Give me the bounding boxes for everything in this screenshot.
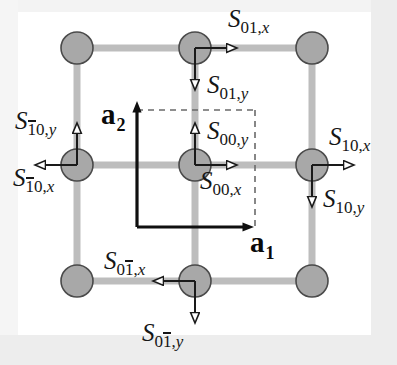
label-S0m1y: S01,y [142, 320, 183, 345]
label-Sm10x: S10,x [13, 165, 54, 190]
site [61, 32, 93, 64]
site [61, 265, 93, 297]
label-S00x: S00,x [200, 168, 241, 193]
label-S01y: S01,y [207, 72, 248, 97]
label-S01x: S01,x [228, 6, 269, 31]
label-S10x: S10,x [329, 124, 370, 149]
lattice-spin-figure: S01,x S01,y S00,y S00,x S10,x S10,y S10,… [0, 0, 397, 365]
site [296, 265, 328, 297]
label-S00y: S00,y [207, 118, 248, 143]
label-vector-a1: a1 [250, 228, 274, 257]
figure-canvas [0, 0, 397, 365]
label-S10y: S10,y [323, 186, 364, 211]
label-S0m1x: S01,x [104, 248, 145, 273]
label-vector-a2: a2 [101, 100, 125, 129]
label-Sm10y: S10,y [15, 108, 56, 133]
site [296, 32, 328, 64]
